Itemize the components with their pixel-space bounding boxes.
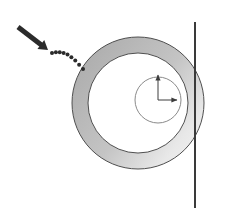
leader-dot: [54, 50, 58, 54]
diagram-canvas: [0, 0, 250, 208]
leader-dot: [66, 53, 70, 57]
annulus-fill: [0, 0, 250, 208]
leader-dot: [50, 51, 54, 55]
leader-dot: [81, 67, 85, 71]
leader-dot: [77, 63, 81, 67]
leader-dot: [62, 51, 66, 55]
leader-dot: [69, 55, 73, 59]
annulus-diagram-svg: [0, 0, 250, 208]
leader-dot: [58, 50, 62, 54]
annulus-group: [0, 0, 250, 208]
leader-dot: [73, 59, 77, 63]
